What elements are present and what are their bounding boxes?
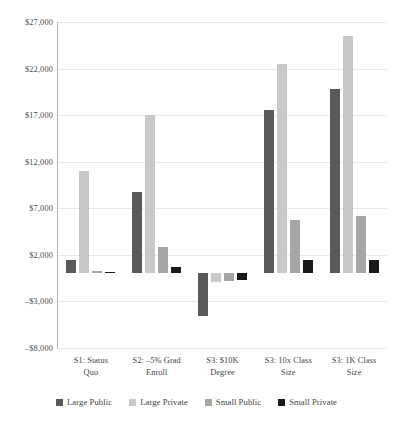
x-axis-category-label-line: Size: [321, 367, 387, 379]
bar: [237, 273, 247, 280]
y-axis-tick-label: $27,000: [1, 18, 53, 27]
bar: [264, 110, 274, 274]
bar: [211, 273, 221, 281]
x-axis-category-label-line: Degree: [190, 367, 256, 379]
legend-item: Large Public: [56, 397, 112, 407]
legend-label: Large Public: [67, 397, 112, 407]
bar-group: [58, 22, 124, 348]
bar-group: [321, 22, 387, 348]
bar-group: [190, 22, 256, 348]
x-axis-category-label-line: S2: –5% Grad: [124, 355, 190, 367]
legend-swatch-icon: [278, 399, 285, 406]
y-axis-tick-label: $2,000: [1, 250, 53, 259]
bar: [171, 267, 181, 274]
x-axis-category-label: S3: 1K ClassSize: [321, 355, 387, 378]
bar-groups: [58, 22, 387, 348]
x-axis-category-label-line: S3: 10x Class: [255, 355, 321, 367]
x-axis-category-label: S1: StatusQuo: [58, 355, 124, 378]
gridline: [57, 348, 387, 349]
x-axis-category-label-line: Size: [255, 367, 321, 379]
legend-swatch-icon: [129, 399, 136, 406]
bar: [132, 192, 142, 274]
x-axis-category-label: S3: $10KDegree: [190, 355, 256, 378]
bar: [105, 272, 115, 273]
legend-label: Small Private: [289, 397, 337, 407]
legend-label: Small Public: [216, 397, 261, 407]
bar-group: [124, 22, 190, 348]
bar-chart: $27,000$22,000$17,000$12,000$7,000$2,000…: [0, 0, 393, 428]
y-axis-tick-label: –$3,000: [1, 297, 53, 306]
y-axis-tick-labels: $27,000$22,000$17,000$12,000$7,000$2,000…: [0, 0, 53, 428]
bar: [198, 273, 208, 316]
y-axis-tick-label: –$8,000: [1, 344, 53, 353]
bar: [369, 260, 379, 274]
chart-legend: Large PublicLarge PrivateSmall PublicSma…: [0, 397, 393, 407]
legend-swatch-icon: [205, 399, 212, 406]
x-axis-category-label-line: S3: 1K Class: [321, 355, 387, 367]
legend-item: Small Public: [205, 397, 261, 407]
x-axis-category-label-line: S1: Status: [58, 355, 124, 367]
x-axis-category-label-line: Quo: [58, 367, 124, 379]
y-axis-tick-label: $7,000: [1, 204, 53, 213]
bar: [356, 216, 366, 274]
bar: [303, 260, 313, 273]
bar: [343, 36, 353, 274]
legend-label: Large Private: [140, 397, 188, 407]
bar-group: [255, 22, 321, 348]
y-axis-tick-label: $12,000: [1, 157, 53, 166]
y-axis-tick-label: $17,000: [1, 111, 53, 120]
legend-item: Small Private: [278, 397, 337, 407]
bar: [158, 247, 168, 273]
x-axis-category-labels: S1: StatusQuoS2: –5% GradEnrollS3: $10KD…: [58, 355, 387, 378]
y-axis-tick-label: $22,000: [1, 64, 53, 73]
bar: [79, 171, 89, 273]
bar: [277, 64, 287, 274]
bar: [290, 220, 300, 273]
x-axis-category-label: S3: 10x ClassSize: [255, 355, 321, 378]
legend-swatch-icon: [56, 399, 63, 406]
bar: [224, 273, 234, 280]
x-axis-category-label: S2: –5% GradEnroll: [124, 355, 190, 378]
x-axis-category-label-line: S3: $10K: [190, 355, 256, 367]
bar: [66, 260, 76, 273]
legend-item: Large Private: [129, 397, 188, 407]
bar: [330, 89, 340, 273]
bar: [145, 115, 155, 273]
x-axis-category-label-line: Enroll: [124, 367, 190, 379]
bar: [92, 271, 102, 273]
